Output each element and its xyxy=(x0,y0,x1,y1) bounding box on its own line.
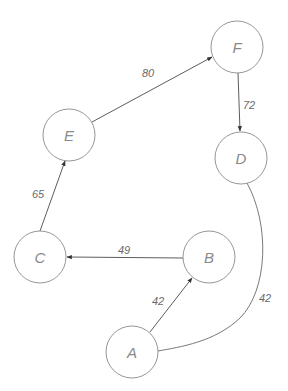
weight-c-e: 65 xyxy=(32,188,45,200)
node-b: B xyxy=(183,231,235,283)
edge-b-c xyxy=(67,257,183,258)
node-e-label: E xyxy=(64,127,75,144)
graph-diagram: 42 49 65 80 72 42 A B C D E F xyxy=(0,0,288,391)
node-d-label: D xyxy=(236,150,247,167)
node-d: D xyxy=(215,132,267,184)
node-c: C xyxy=(14,231,66,283)
node-a: A xyxy=(106,326,158,378)
weight-f-d: 72 xyxy=(243,99,255,111)
node-f-label: F xyxy=(232,39,242,56)
weight-a-b: 42 xyxy=(152,295,164,307)
weight-d-a: 42 xyxy=(259,292,271,304)
edge-f-d xyxy=(238,73,240,131)
node-b-label: B xyxy=(204,249,214,266)
node-f: F xyxy=(211,21,263,73)
weight-b-c: 49 xyxy=(118,244,130,256)
edge-weights: 42 49 65 80 72 42 xyxy=(32,67,271,307)
node-a-label: A xyxy=(126,344,137,361)
node-c-label: C xyxy=(35,249,46,266)
weight-e-f: 80 xyxy=(142,67,155,79)
node-e: E xyxy=(43,109,95,161)
